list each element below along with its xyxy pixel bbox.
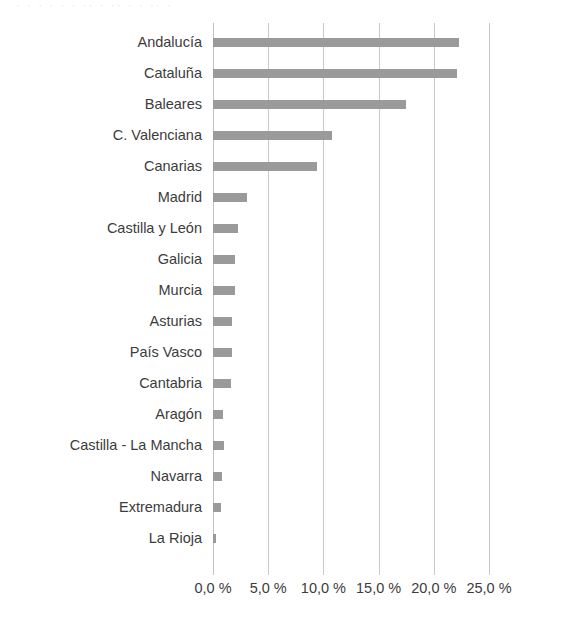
bar-row: Castilla - La Mancha	[0, 430, 563, 461]
x-tick-label: 20,0 %	[411, 580, 456, 596]
category-label: Cataluña	[0, 58, 202, 89]
bar-row: País Vasco	[0, 337, 563, 368]
bar-row: Murcia	[0, 275, 563, 306]
bar-row: Aragón	[0, 399, 563, 430]
bar	[213, 69, 457, 78]
bar-row: Galicia	[0, 244, 563, 275]
bar	[213, 534, 216, 543]
bar-row: Canarias	[0, 151, 563, 182]
category-label: Cantabria	[0, 368, 202, 399]
category-label: Baleares	[0, 89, 202, 120]
x-tick-label: 0,0 %	[194, 580, 231, 596]
bar-row: C. Valenciana	[0, 120, 563, 151]
bar	[213, 193, 247, 202]
bar-row: Cantabria	[0, 368, 563, 399]
bar-chart: · · · · · · ·· · ·· · · ·· · AndalucíaCa…	[0, 0, 563, 622]
category-label: La Rioja	[0, 523, 202, 554]
category-label: Castilla y León	[0, 213, 202, 244]
bar	[213, 441, 224, 450]
bar	[213, 410, 223, 419]
x-tick-label: 5,0 %	[250, 580, 287, 596]
bar-row: Baleares	[0, 89, 563, 120]
bar-row: La Rioja	[0, 523, 563, 554]
category-label: País Vasco	[0, 337, 202, 368]
plot-area: AndalucíaCataluñaBalearesC. ValencianaCa…	[0, 0, 563, 622]
bar	[213, 503, 221, 512]
category-label: Asturias	[0, 306, 202, 337]
bar-row: Navarra	[0, 461, 563, 492]
bar-row: Asturias	[0, 306, 563, 337]
bar	[213, 131, 332, 140]
category-label: Madrid	[0, 182, 202, 213]
bar	[213, 162, 317, 171]
category-label: Galicia	[0, 244, 202, 275]
category-label: Aragón	[0, 399, 202, 430]
category-label: Castilla - La Mancha	[0, 430, 202, 461]
bar	[213, 317, 232, 326]
bar	[213, 38, 459, 47]
category-label: Canarias	[0, 151, 202, 182]
x-tick-label: 10,0 %	[301, 580, 346, 596]
category-label: C. Valenciana	[0, 120, 202, 151]
bar	[213, 286, 235, 295]
bar	[213, 224, 238, 233]
bar	[213, 379, 231, 388]
category-label: Murcia	[0, 275, 202, 306]
category-label: Andalucía	[0, 27, 202, 58]
x-tick-label: 25,0 %	[466, 580, 511, 596]
bar-row: Castilla y León	[0, 213, 563, 244]
bar-row: Madrid	[0, 182, 563, 213]
bar-row: Andalucía	[0, 27, 563, 58]
bar	[213, 348, 232, 357]
category-label: Navarra	[0, 461, 202, 492]
bar-row: Extremadura	[0, 492, 563, 523]
category-label: Extremadura	[0, 492, 202, 523]
x-tick-label: 15,0 %	[356, 580, 401, 596]
bar-row: Cataluña	[0, 58, 563, 89]
bar	[213, 100, 406, 109]
bar	[213, 255, 235, 264]
bar	[213, 472, 222, 481]
x-axis-tick-labels: 0,0 %5,0 %10,0 %15,0 %20,0 %25,0 %	[0, 580, 563, 604]
